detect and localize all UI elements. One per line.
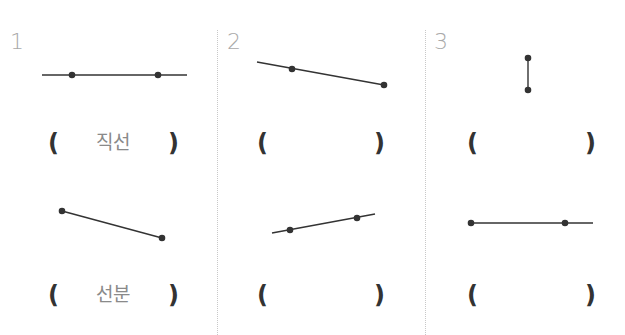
close-bracket: ) <box>585 131 596 155</box>
close-bracket: ) <box>585 283 596 307</box>
answer-3a[interactable] <box>510 133 570 153</box>
close-bracket: ) <box>374 131 385 155</box>
line-figure-1a <box>42 72 187 77</box>
close-bracket: ) <box>168 131 179 155</box>
answer-2b[interactable] <box>300 285 360 305</box>
ray-figure-2a <box>257 62 387 88</box>
answer-3b[interactable] <box>510 285 570 305</box>
close-bracket: ) <box>374 283 385 307</box>
ray-figure-3b <box>468 220 593 225</box>
open-bracket: ( <box>48 283 59 307</box>
segment-figure-3a <box>525 55 530 92</box>
open-bracket: ( <box>257 131 268 155</box>
open-bracket: ( <box>48 131 59 155</box>
open-bracket: ( <box>467 131 478 155</box>
answer-1a[interactable]: 직선 <box>96 133 130 152</box>
open-bracket: ( <box>257 283 268 307</box>
answer-1b[interactable]: 선분 <box>96 285 130 304</box>
close-bracket: ) <box>168 283 179 307</box>
open-bracket: ( <box>467 283 478 307</box>
answer-2a[interactable] <box>300 133 360 153</box>
line-figure-2b <box>272 214 375 233</box>
segment-figure-1b <box>59 208 164 240</box>
